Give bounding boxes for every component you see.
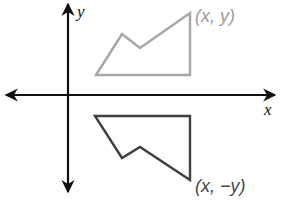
y-axis-label: y: [75, 2, 85, 21]
diagram-svg: y x (x, y) (x, −y): [0, 0, 281, 200]
reflected-point-label: (x, −y): [195, 176, 246, 196]
original-point-label: (x, y): [195, 6, 235, 26]
original-polygon: [96, 13, 190, 75]
reflection-diagram: y x (x, y) (x, −y): [0, 0, 281, 200]
x-axis-label: x: [263, 100, 272, 119]
reflected-polygon: [95, 116, 190, 180]
